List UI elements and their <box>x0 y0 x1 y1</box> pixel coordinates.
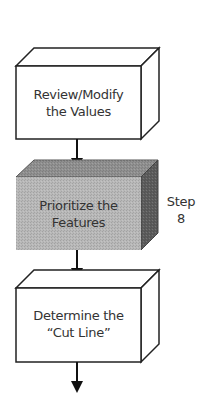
box-top-face <box>16 48 159 66</box>
label-line: the Values <box>16 103 141 120</box>
step-label-cut-line: Determine the “Cut Line” <box>16 307 141 341</box>
annotation-line: Step <box>162 193 200 210</box>
label-line: Determine the <box>16 307 141 324</box>
step-label-prioritize: Prioritize the Features <box>16 197 141 231</box>
label-line: Prioritize the <box>16 197 141 214</box>
label-line: Review/Modify <box>16 86 141 103</box>
label-line: “Cut Line” <box>16 324 141 341</box>
step-number-annotation: Step 8 <box>162 193 200 227</box>
box-top-face <box>16 270 159 288</box>
annotation-line: 8 <box>162 210 200 227</box>
step-label-review-modify: Review/Modify the Values <box>16 86 141 120</box>
label-line: Features <box>16 214 141 231</box>
arrow-down-icon <box>71 362 83 393</box>
